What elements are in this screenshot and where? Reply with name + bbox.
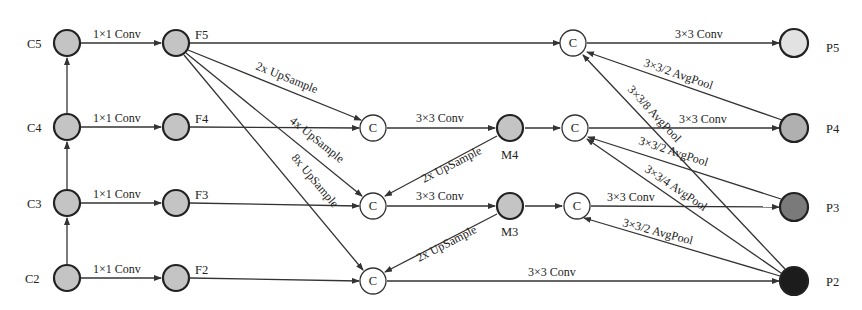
label-f2: F2 [195, 263, 208, 277]
label-c2-f2: 1×1 Conv [93, 262, 141, 276]
node-c4 [54, 114, 80, 140]
node-f2 [163, 265, 189, 291]
node-f4 [163, 114, 189, 140]
edge-p4-avgpool-2 [587, 52, 782, 120]
label-c3: C3 [27, 197, 42, 211]
node-p5 [780, 29, 808, 57]
concat-label: C [569, 36, 577, 50]
label-m3: M3 [501, 225, 518, 239]
label-f5: F5 [195, 28, 208, 42]
label-cat-p4: 3×3 Conv [679, 112, 727, 126]
node-f5 [163, 30, 189, 56]
label-cat-p5: 3×3 Conv [675, 27, 723, 41]
label-c4: C4 [27, 121, 42, 135]
node-c2 [54, 265, 80, 291]
edge-p2-avgpool-2 [584, 218, 780, 276]
edge-f2-c2cat [190, 278, 359, 281]
label-p2: P2 [826, 275, 839, 289]
label-f3: F3 [195, 188, 208, 202]
concat-label: C [571, 121, 579, 135]
concat-label: C [369, 121, 377, 135]
node-p3 [780, 193, 808, 221]
concat-label: C [369, 199, 377, 213]
node-f3 [163, 190, 189, 216]
edge-f5-2x-upsample [188, 50, 361, 120]
label-p2-avgpool-8: 3×3/8 AvgPool [625, 82, 685, 145]
label-c5-f5: 1×1 Conv [93, 27, 141, 41]
node-c5 [54, 30, 80, 56]
concat-labels: C C C C C C [369, 36, 581, 288]
label-m4: M4 [501, 148, 519, 162]
label-cat-p2: 3×3 Conv [528, 265, 576, 279]
label-c5: C5 [27, 37, 42, 51]
label-f4: F4 [195, 112, 209, 126]
label-c4-f4: 1×1 Conv [93, 111, 141, 125]
fpn-architecture-diagram: 1×1 Conv 1×1 Conv 1×1 Conv 1×1 Conv 2x U… [0, 0, 862, 310]
node-m3 [497, 193, 523, 219]
label-cat4-m4: 3×3 Conv [416, 111, 464, 125]
label-f5-2x: 2x UpSample [254, 59, 320, 97]
label-c3-f3: 1×1 Conv [93, 187, 141, 201]
concat-label: C [369, 274, 377, 288]
label-p2-avgpool-2: 3×3/2 AvgPool [621, 215, 695, 247]
label-m4-2x: 2x UpSample [419, 143, 484, 185]
label-c2: C2 [25, 272, 40, 286]
label-cat-p3: 3×3 Conv [607, 190, 655, 204]
node-c3 [54, 190, 80, 216]
edge-f4-c4cat [190, 127, 359, 128]
edge-labels: 1×1 Conv 1×1 Conv 1×1 Conv 1×1 Conv 2x U… [93, 27, 727, 279]
label-p4: P4 [826, 122, 840, 136]
label-cat3-m3: 3×3 Conv [416, 189, 464, 203]
node-p2 [780, 267, 808, 295]
label-p3: P3 [826, 201, 839, 215]
label-p4-avgpool: 3×3/2 AvgPool [642, 56, 715, 93]
concat-label: C [573, 199, 581, 213]
node-p4 [780, 114, 808, 142]
node-m4 [497, 115, 523, 141]
label-p5: P5 [826, 41, 839, 55]
label-m3-2x: 2x UpSample [414, 222, 479, 264]
